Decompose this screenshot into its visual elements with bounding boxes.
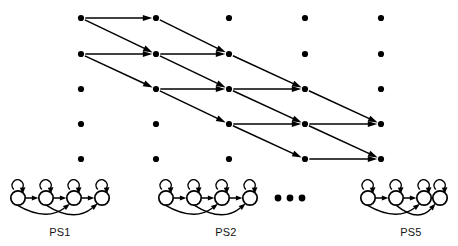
state-machine-ps5	[361, 180, 448, 215]
forward-transition-2	[54, 195, 66, 200]
trellis-edge-diagonal	[233, 126, 302, 158]
state-machine-label-ps2: PS2	[215, 226, 236, 238]
state-node	[39, 191, 53, 205]
trellis-edge-diagonal-shaft	[85, 20, 146, 49]
forward-transition-1-head	[382, 195, 389, 200]
state-node	[215, 191, 229, 205]
trellis-edge-diagonal-head	[292, 151, 302, 158]
state-machine-layer	[11, 180, 448, 215]
trellis-edge-diagonal	[160, 91, 226, 123]
forward-transition-1	[26, 195, 38, 200]
state-machine-ps1	[11, 180, 110, 215]
trellis-figure: PS1PS2PS5	[0, 0, 458, 246]
trellis-edge-horizontal	[160, 51, 225, 57]
forward-transition-2	[404, 195, 416, 200]
trellis-node	[153, 15, 159, 21]
trellis-edge-diagonal-shaft	[233, 56, 294, 84]
trellis-edge-diagonal-shaft	[233, 126, 294, 154]
trellis-edge-diagonal	[160, 56, 226, 88]
forward-transition-2-head	[208, 195, 215, 200]
trellis-edge-diagonal-head	[216, 45, 226, 52]
state-node	[243, 191, 257, 205]
trellis-node	[378, 156, 384, 162]
forward-transition-3	[82, 195, 94, 200]
state-node	[389, 191, 403, 205]
state-node	[187, 191, 201, 205]
forward-transition-2-head	[410, 195, 417, 200]
trellis-edge-diagonal-shaft	[309, 126, 370, 154]
trellis-edge-diagonal-head	[143, 45, 153, 52]
trellis-node	[378, 15, 384, 21]
trellis-edge-diagonal	[85, 56, 153, 88]
trellis-node	[226, 156, 232, 162]
trellis-edge-diagonal-shaft	[85, 56, 146, 84]
forward-transition-1-head	[32, 195, 39, 200]
forward-transition-2-head	[60, 195, 67, 200]
trellis-node	[302, 51, 308, 57]
ellipsis-dot	[287, 195, 294, 202]
trellis-node	[302, 15, 308, 21]
ellipsis-dot	[299, 195, 306, 202]
trellis-edge-horizontal	[160, 86, 225, 92]
trellis-node	[378, 121, 384, 127]
forward-transition-3-head	[236, 195, 243, 200]
state-node	[433, 191, 447, 205]
trellis-edge-diagonal	[309, 126, 378, 158]
trellis-edge-diagonal-head	[216, 80, 226, 87]
trellis-edge-diagonal-head	[216, 115, 226, 122]
state-machine-label-ps1: PS1	[49, 226, 70, 238]
trellis-edge-diagonal-shaft	[233, 91, 294, 119]
machine-label-layer: PS1PS2PS5	[49, 226, 421, 238]
trellis-node	[78, 86, 84, 92]
state-machine-label-ps5: PS5	[400, 226, 421, 238]
state-node	[361, 191, 375, 205]
trellis-edge-diagonal-head	[143, 81, 153, 88]
forward-transition-1	[174, 195, 186, 200]
figure-canvas: PS1PS2PS5	[0, 0, 458, 246]
state-node	[417, 191, 431, 205]
trellis-edge-diagonal	[233, 91, 302, 123]
forward-transition-3-head	[88, 195, 95, 200]
trellis-edge-diagonal-shaft	[160, 20, 219, 49]
forward-transition-2	[202, 195, 214, 200]
state-node	[67, 191, 81, 205]
trellis-node	[302, 86, 308, 92]
trellis-edge-diagonal	[233, 56, 302, 88]
trellis-edge-diagonal	[85, 20, 153, 53]
trellis-node	[153, 51, 159, 57]
trellis-node	[78, 15, 84, 21]
trellis-node	[153, 156, 159, 162]
trellis-edge-horizontal	[233, 86, 301, 92]
trellis-edge-diagonal-shaft	[160, 91, 219, 119]
trellis-edge-horizontal	[85, 15, 152, 21]
trellis-node	[226, 15, 232, 21]
forward-transition-1-head	[180, 195, 187, 200]
trellis-edge-diagonal-shaft	[160, 56, 219, 84]
trellis-edge-horizontal	[85, 51, 152, 57]
trellis-node	[226, 121, 232, 127]
state-node	[11, 191, 25, 205]
trellis-node	[378, 86, 384, 92]
trellis-edge-horizontal	[309, 121, 377, 127]
trellis-edge-diagonal	[309, 91, 378, 123]
trellis-node	[153, 86, 159, 92]
trellis-edge-horizontal-head	[143, 15, 153, 21]
state-node	[159, 191, 173, 205]
trellis-node	[378, 51, 384, 57]
trellis-edge-diagonal	[160, 20, 226, 52]
state-node	[95, 191, 109, 205]
trellis-node	[78, 121, 84, 127]
return-arc-long-left-shaft	[164, 205, 212, 215]
ellipsis-dot	[275, 195, 282, 202]
trellis-node	[78, 156, 84, 162]
state-machine-ps2	[159, 180, 258, 215]
trellis-edge-diagonal-shaft	[309, 91, 370, 119]
trellis-node	[153, 121, 159, 127]
trellis-node	[302, 156, 308, 162]
forward-transition-1	[376, 195, 388, 200]
trellis-edge-horizontal	[233, 121, 301, 127]
trellis-node	[302, 121, 308, 127]
ellipsis-group	[275, 195, 306, 202]
trellis-node	[78, 51, 84, 57]
return-arc-long-left-shaft	[16, 205, 64, 215]
